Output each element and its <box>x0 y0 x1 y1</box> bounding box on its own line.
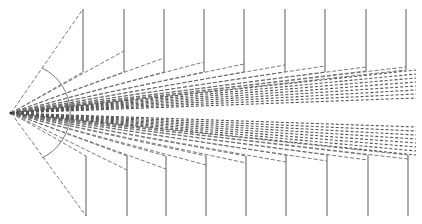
ray-fan-diagram <box>0 0 422 224</box>
bottom-ray <box>11 113 86 216</box>
top-fan-line <box>11 70 416 113</box>
bottom-vertical-lines <box>86 155 408 216</box>
top-ray <box>11 65 285 113</box>
bottom-ray <box>11 113 127 170</box>
diagram-canvas <box>0 0 422 224</box>
bottom-ray-upper <box>11 113 368 155</box>
bottom-ray <box>11 113 408 159</box>
apex-point <box>9 111 12 114</box>
top-vertical-lines <box>83 9 406 72</box>
top-fan-line <box>11 86 416 113</box>
bottom-fan-line <box>11 113 416 143</box>
top-fan-lines <box>11 70 416 113</box>
top-fan-line <box>11 90 416 113</box>
bottom-fan-line <box>11 113 416 151</box>
apex-dot <box>9 111 12 114</box>
bottom-ray <box>11 113 327 161</box>
top-fan-line <box>11 78 416 113</box>
top-ray <box>11 9 83 113</box>
